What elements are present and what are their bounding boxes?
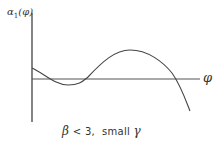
figure-caption: β < 3, small γ (62, 124, 141, 138)
alpha-argument: (φ) (18, 6, 33, 17)
y-axis-label: α1(φ) (7, 6, 33, 20)
caption-condition: < 3, small (69, 126, 133, 137)
alpha1-curve (32, 50, 190, 111)
alpha-symbol: α (7, 6, 14, 17)
plot-area (0, 0, 218, 143)
gamma-symbol: γ (134, 124, 141, 138)
figure: α1(φ) φ β < 3, small γ (0, 0, 218, 143)
x-axis-label: φ (203, 70, 212, 85)
